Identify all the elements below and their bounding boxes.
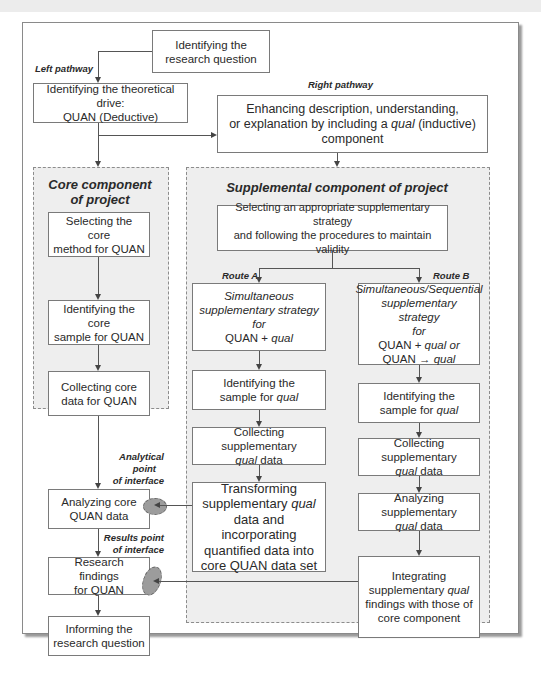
connector: [259, 351, 260, 364]
connector: [159, 581, 358, 582]
box-route-b-strategy: Simultaneous/Sequential supplementary st…: [358, 283, 480, 365]
arrow-head-icon: [256, 421, 262, 427]
box-b-collect: Collecting supplementary qual data: [358, 438, 480, 476]
connector: [419, 531, 420, 550]
label-route-b: Route B: [433, 270, 469, 282]
arrow-head-icon: [95, 483, 101, 489]
connector: [98, 257, 99, 294]
box-core-analyze: Analyzing core QUAN data: [48, 489, 150, 529]
connector: [419, 476, 420, 487]
label-right-pathway: Right pathway: [308, 79, 373, 91]
connector: [419, 365, 420, 377]
arrow-head-icon: [95, 77, 101, 83]
box-research-question: Identifying the research question: [152, 30, 270, 73]
box-core-collect: Collecting core data for QUAN: [48, 371, 150, 416]
box-core-sample: Identifying the core sample for QUAN: [48, 300, 150, 345]
connector: [419, 423, 420, 432]
connector: [419, 268, 420, 277]
arrow-head-icon: [95, 161, 101, 167]
box-theoretical-drive: Identifying the theoretical drive: QUAN …: [33, 83, 188, 123]
label-left-pathway: Left pathway: [35, 63, 93, 75]
box-core-method: Selecting the core method for QUAN: [48, 212, 150, 257]
connector: [259, 410, 260, 421]
label-results-point: Results point of interface: [100, 532, 164, 556]
connector: [259, 465, 260, 476]
arrow-head-icon: [95, 365, 101, 371]
box-a-collect: Collecting supplementary qual data: [192, 427, 326, 465]
core-component-title: Core component of project: [33, 177, 167, 207]
box-a-transform: Transforming supplementary qual data and…: [192, 482, 326, 572]
connector: [98, 595, 99, 610]
box-b-analyze: Analyzing supplementary qual data: [358, 493, 480, 531]
arrow-head-icon: [416, 277, 422, 283]
box-route-a-strategy: Simultaneous supplementary strategy for …: [192, 283, 326, 351]
connector: [98, 529, 99, 551]
box-core-findings: Research findings for QUAN: [48, 557, 150, 595]
arrow-head-icon: [256, 277, 262, 283]
connector: [160, 505, 192, 506]
label-route-a: Route A: [222, 270, 258, 282]
box-b-sample: Identifying the sample for qual: [358, 383, 480, 423]
connector: [98, 416, 99, 483]
box-select-strategy: Selecting an appropriate supplementary s…: [217, 205, 448, 251]
arrow-head-icon: [334, 161, 340, 167]
arrow-head-icon: [256, 364, 262, 370]
connector: [98, 123, 99, 161]
box-a-sample: Identifying the sample for qual: [192, 370, 326, 410]
arrow-head-icon: [416, 550, 422, 556]
supplemental-component-title: Supplemental component of project: [186, 180, 488, 195]
arrow-head-icon: [95, 610, 101, 616]
connector: [259, 268, 420, 269]
box-enhancing: Enhancing description, understanding, or…: [217, 95, 488, 153]
arrow-head-icon: [416, 377, 422, 383]
arrow-head-icon: [95, 294, 101, 300]
arrow-head-icon: [416, 487, 422, 493]
label-analytical-point: Analytical point of interface: [108, 451, 164, 487]
arrow-head-icon: [95, 551, 101, 557]
arrow-head-icon: [154, 502, 160, 508]
arrow-head-icon: [416, 432, 422, 438]
top-band: [0, 0, 541, 12]
connector: [98, 51, 152, 52]
connector: [98, 345, 99, 365]
connector: [259, 268, 260, 277]
connector: [337, 153, 338, 161]
arrow-head-icon: [153, 578, 159, 584]
box-informing: Informing the research question: [48, 616, 150, 656]
connector: [332, 251, 333, 268]
connector: [98, 135, 211, 136]
box-b-integrate: Integrating supplementary qual findings …: [358, 556, 480, 638]
arrow-head-icon: [256, 476, 262, 482]
arrow-head-icon: [211, 132, 217, 138]
connector: [98, 51, 99, 77]
